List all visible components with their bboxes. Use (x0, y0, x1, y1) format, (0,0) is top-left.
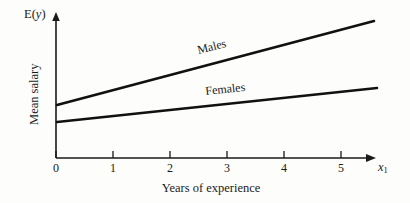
y-axis-symbol-prefix: E( (24, 7, 36, 21)
x-axis-symbol-variable: x (378, 160, 384, 174)
x-tick-label-2: 2 (160, 162, 180, 174)
y-axis-symbol: E(y) (24, 8, 46, 21)
x-tick-label-3: 3 (217, 162, 237, 174)
y-axis-group (52, 12, 60, 158)
y-axis-symbol-suffix: ) (41, 7, 45, 21)
x-tick-label-4: 4 (274, 162, 294, 174)
y-axis-arrow-icon (52, 12, 60, 21)
y-axis-title: Mean salary (28, 44, 41, 144)
x-axis-group (56, 154, 376, 162)
chart-figure: E(y) x1 Mean salary Years of experience … (0, 0, 410, 203)
x-axis-title: Years of experience (131, 182, 291, 195)
x-tick-label-5: 5 (331, 162, 351, 174)
x-axis-symbol: x1 (378, 161, 388, 174)
x-axis-ticks (56, 151, 341, 158)
x-tick-label-0: 0 (46, 162, 66, 174)
x-axis-symbol-subscript: 1 (384, 165, 388, 175)
x-tick-label-1: 1 (103, 162, 123, 174)
x-axis-arrow-icon (366, 154, 376, 162)
